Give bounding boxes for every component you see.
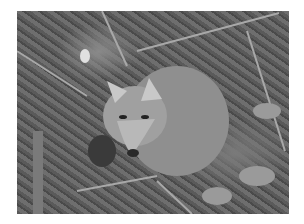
fox-photo [17, 11, 289, 214]
foreground-stem [33, 131, 43, 214]
fox [88, 66, 229, 176]
fox-illustration [17, 11, 289, 214]
